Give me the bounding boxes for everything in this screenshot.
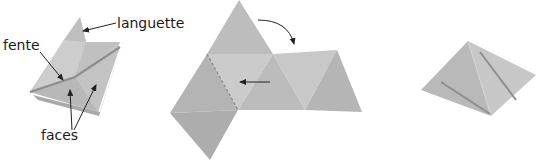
- assembled-tetrahedron: [421, 41, 536, 116]
- slot-label: fente: [3, 37, 40, 53]
- tetrahedron-net: [170, 0, 362, 160]
- tetrahedron-assembly-diagram: languette fente faces: [0, 0, 540, 162]
- tab-label: languette: [117, 15, 184, 31]
- folded-piece: languette fente faces: [3, 15, 184, 143]
- faces-label: faces: [41, 127, 78, 143]
